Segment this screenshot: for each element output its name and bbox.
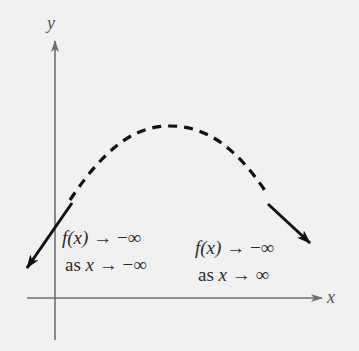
left-approach: → −∞ <box>94 254 147 275</box>
left-annotation-line2: as x → −∞ <box>65 255 147 274</box>
right-approach: → ∞ <box>227 264 269 285</box>
right-limit: → −∞ <box>221 237 274 258</box>
right-func: f(x) <box>195 237 221 258</box>
x-axis-label: x <box>327 288 335 306</box>
left-as: as <box>65 254 86 275</box>
graph-canvas <box>0 0 359 351</box>
curve-dashed-middle <box>70 126 268 200</box>
right-annotation-line1: f(x) → −∞ <box>195 238 274 257</box>
left-func: f(x) <box>62 227 88 248</box>
left-annotation-line1: f(x) → −∞ <box>62 228 141 247</box>
right-annotation-line2: as x → ∞ <box>198 265 269 284</box>
right-as: as <box>198 264 219 285</box>
y-axis-label: y <box>47 14 55 32</box>
right-var: x <box>219 264 227 285</box>
left-var: x <box>86 254 94 275</box>
curve-right-end-arrow <box>268 204 310 243</box>
left-limit: → −∞ <box>88 227 141 248</box>
